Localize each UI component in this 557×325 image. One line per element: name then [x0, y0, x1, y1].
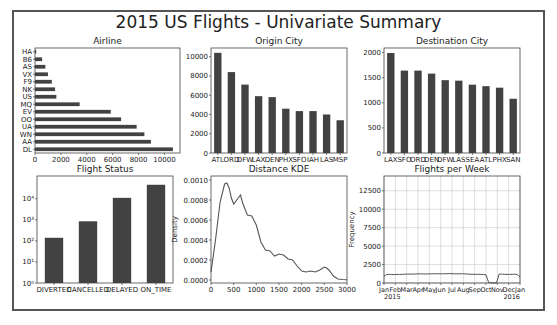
- bar: [323, 114, 330, 153]
- x-tick-label: SEA: [466, 156, 480, 164]
- x-tick-year: 2016: [503, 293, 520, 301]
- x-tick-label: 0: [209, 286, 213, 294]
- x-tick-label: ATL: [212, 156, 225, 164]
- bar: [337, 120, 344, 153]
- y-tick-label: 6000: [190, 92, 208, 100]
- y-tick-label: 0.0000: [184, 277, 209, 285]
- x-tick-label: 1500: [270, 286, 288, 294]
- chart-canvas: AirlineHAB6ASVXF9NKUSMQEVOOUAWNAADL02000…: [0, 0, 557, 325]
- bar: [282, 109, 289, 153]
- x-tick-label: May: [423, 286, 437, 294]
- bar: [387, 53, 394, 153]
- y-tick-label: 0: [377, 280, 381, 288]
- x-tick-label: Jun: [435, 286, 446, 294]
- axes-frame: [211, 176, 347, 283]
- y-tick-label: 0.0004: [184, 237, 209, 245]
- bar: [455, 81, 462, 153]
- bar: [35, 102, 80, 106]
- x-tick-label: PHX: [279, 156, 293, 164]
- x-tick-label: CANCELLED: [67, 286, 109, 294]
- x-tick-label: Jul: [447, 286, 456, 294]
- bar: [35, 117, 121, 121]
- x-tick-label: 1000: [247, 286, 265, 294]
- chart-title: Airline: [93, 36, 122, 46]
- bar: [35, 57, 42, 61]
- x-tick-label: LAX: [252, 156, 266, 164]
- chart-distance-kde: Distance KDE0500100015002000250030000.00…: [171, 164, 356, 294]
- x-tick-label: 6000: [104, 156, 122, 164]
- y-tick-label: 4000: [190, 111, 208, 119]
- y-tick-label: 2000: [363, 49, 381, 57]
- x-tick-label: 2500: [315, 286, 333, 294]
- y-tick-label: 10⁰: [22, 280, 34, 288]
- y-tick-label: 2500: [363, 261, 381, 269]
- x-tick-label: LAS: [452, 156, 466, 164]
- chart-origin-city: Origin CityATLORDDFWLAXDENPHXSFOIAHLASMS…: [186, 36, 348, 164]
- x-tick-label: Sep: [469, 286, 481, 294]
- chart-title: Flights per Week: [414, 164, 490, 174]
- x-tick-label: IAH: [307, 156, 319, 164]
- bar: [401, 71, 408, 153]
- y-tick-label: 10000: [359, 206, 381, 214]
- y-tick-label: 5000: [363, 243, 381, 251]
- chart-title: Distance KDE: [249, 164, 310, 174]
- x-tick-year: 2015: [384, 293, 401, 301]
- x-tick-label: 10000: [153, 156, 175, 164]
- x-tick-label: Feb: [390, 286, 402, 294]
- y-tick-label: DL: [23, 146, 32, 154]
- y-tick-label: 0: [377, 150, 381, 158]
- x-tick-label: 500: [227, 286, 240, 294]
- y-tick-label: 2000: [190, 130, 208, 138]
- y-tick-label: 12500: [359, 187, 381, 195]
- bar: [309, 111, 316, 153]
- y-tick-label: 0.0010: [184, 177, 209, 185]
- bar: [35, 140, 151, 144]
- x-tick-label: 2000: [52, 156, 70, 164]
- bar: [241, 85, 248, 153]
- bar: [510, 99, 517, 153]
- y-tick-label: 10¹: [22, 258, 34, 266]
- x-tick-label: 2000: [293, 286, 311, 294]
- y-tick-label: 7500: [363, 224, 381, 232]
- bar: [35, 132, 144, 136]
- x-tick-label: LAS: [320, 156, 334, 164]
- y-tick-label: 10⁴: [22, 195, 34, 203]
- bar: [255, 96, 262, 153]
- x-tick-label: ON_TIME: [140, 286, 171, 294]
- y-tick-label: 0.0008: [184, 197, 209, 205]
- bar: [35, 110, 111, 114]
- y-tick-label: 0: [204, 150, 208, 158]
- bar: [296, 111, 303, 153]
- bar: [79, 221, 97, 283]
- bar: [428, 74, 435, 153]
- y-tick-label: 0.0002: [184, 257, 209, 265]
- axes-frame: [35, 48, 180, 153]
- x-tick-label: 0: [33, 156, 37, 164]
- bar: [214, 53, 221, 153]
- x-tick-label: SFO: [292, 156, 306, 164]
- chart-title: Destination City: [416, 36, 489, 46]
- x-tick-label: PHX: [492, 156, 506, 164]
- x-tick-label: 3000: [338, 286, 356, 294]
- chart-destination-city: Destination CityLAXSFOORDDENDFWLASSEAATL…: [363, 36, 520, 164]
- x-tick-label: Mar: [401, 286, 414, 294]
- y-tick-label: 10³: [22, 216, 34, 224]
- bar: [496, 88, 503, 153]
- bar: [482, 86, 489, 153]
- bar: [35, 87, 55, 91]
- chart-title: Flight Status: [77, 164, 134, 174]
- chart-flights-per-week: Flights per WeekJan2015FebMarAprMayJunJu…: [348, 164, 525, 301]
- bar: [269, 97, 276, 153]
- x-tick-label: DFW: [437, 156, 453, 164]
- bar: [35, 95, 56, 99]
- y-tick-label: 1000: [363, 99, 381, 107]
- x-tick-label: DEN: [265, 156, 280, 164]
- bar: [45, 238, 63, 283]
- kde-line: [211, 183, 347, 280]
- y-tick-label: 10000: [186, 53, 208, 61]
- y-tick-label: 1500: [363, 74, 381, 82]
- x-tick-label: 4000: [78, 156, 96, 164]
- y-tick-label: 0.0006: [184, 217, 209, 225]
- chart-flight-status: Flight StatusDIVERTEDCANCELLEDDELAYEDON_…: [22, 164, 173, 294]
- bar: [442, 80, 449, 153]
